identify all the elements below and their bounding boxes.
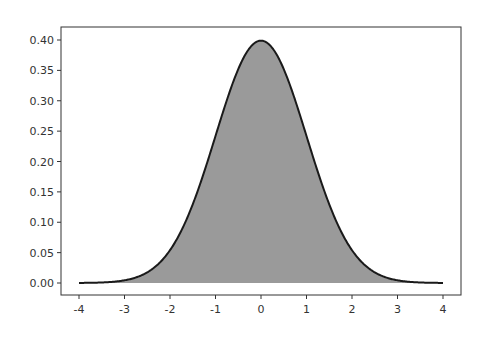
y-tick-label: 0.35 (30, 64, 55, 77)
y-tick-label: 0.15 (30, 186, 55, 199)
x-tick-label: 2 (349, 303, 356, 316)
y-tick-label: 0.10 (30, 216, 55, 229)
y-tick-label: 0.40 (30, 34, 55, 47)
y-tick-label: 0.25 (30, 125, 55, 138)
x-tick-label: -4 (74, 303, 85, 316)
x-tick-label: 0 (258, 303, 265, 316)
x-tick-label: -2 (165, 303, 176, 316)
y-tick-label: 0.05 (30, 247, 55, 260)
density-fill (79, 41, 443, 283)
y-tick-label: 0.00 (30, 277, 55, 290)
y-tick-label: 0.30 (30, 95, 55, 108)
x-tick-label: -3 (119, 303, 130, 316)
x-axis: -4-3-2-101234 (74, 295, 447, 316)
y-axis: 0.000.050.100.150.200.250.300.350.40 (30, 34, 62, 290)
x-tick-label: -1 (210, 303, 221, 316)
y-tick-label: 0.20 (30, 156, 55, 169)
x-tick-label: 1 (303, 303, 310, 316)
x-tick-label: 4 (440, 303, 447, 316)
x-tick-label: 3 (394, 303, 401, 316)
normal-distribution-chart: 0.000.050.100.150.200.250.300.350.40 -4-… (0, 0, 487, 338)
